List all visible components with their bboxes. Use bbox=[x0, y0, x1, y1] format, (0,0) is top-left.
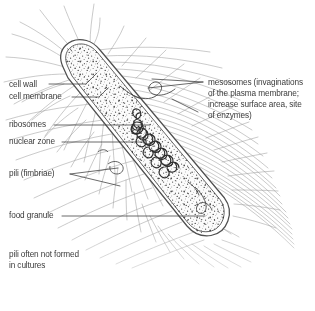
bacterial-cell-diagram: cell wall cell membrane ribosomes nuclea… bbox=[0, 0, 315, 311]
label-food-granule: food granule bbox=[9, 210, 53, 221]
diagram-artwork bbox=[0, 0, 315, 311]
label-cell-wall: cell wall bbox=[9, 79, 37, 90]
label-mesosomes-line1: mesosomes (invaginations bbox=[208, 77, 303, 88]
label-cell-membrane: cell membrane bbox=[9, 91, 62, 102]
label-pili: pili (fimbriae) bbox=[9, 168, 54, 179]
note-pili-line2: in cultures bbox=[9, 260, 45, 271]
label-mesosomes-line2: of the plasma membrane; bbox=[208, 88, 299, 99]
label-mesosomes-line3: increase surface area, site bbox=[208, 99, 302, 110]
note-pili-line1: pili often not formed bbox=[9, 249, 79, 260]
label-ribosomes: ribosomes bbox=[9, 119, 46, 130]
label-nuclear-zone: nuclear zone bbox=[9, 136, 55, 147]
label-mesosomes-line4: of enzymes) bbox=[208, 110, 252, 121]
